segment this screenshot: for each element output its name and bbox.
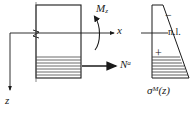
z-axis-label: z [5,95,9,106]
neutral-line-label: n.l. [168,27,181,37]
moment-arrow [95,17,100,50]
negative-sign-label: − [165,9,172,21]
figure-canvas: Mz x z Na n.l. σM(z) − + [0,0,194,114]
normal-force-label: Na [120,59,131,70]
cross-section-rectangle [36,5,81,78]
stress-label: σM(z) [147,85,170,96]
positive-sign-label: + [155,47,162,59]
x-axis-label: x [117,25,122,36]
section-hatching [36,57,81,75]
moment-label: Mz [96,3,108,15]
